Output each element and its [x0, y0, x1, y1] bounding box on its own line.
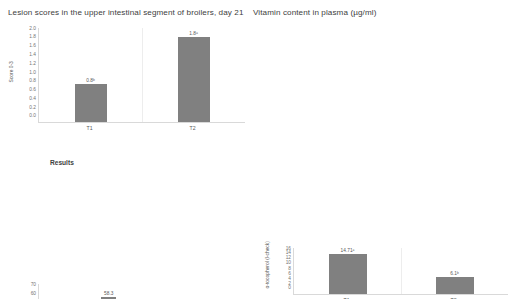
y-tick: 2.0 [29, 27, 36, 32]
lesion-scores-y-axis-label: Score 0-3 [9, 52, 15, 92]
bar-group-score-3: 8.3 16.7 [194, 284, 246, 299]
alpha-tocopherol-check-chart: α-tocopherol (l-check) 16 14 12 10 8 6 4… [253, 244, 509, 299]
y-tick: 0 [288, 286, 291, 291]
alpha-tocopherol-check-y-ticks: 16 14 12 10 8 6 4 2 0 [279, 248, 291, 294]
results-chart: % 70 60 50 40 30 20 10 0 33.3ᵃ 0ᵇ 58.3 [6, 280, 244, 299]
y-tick: 60 [31, 292, 36, 297]
bar-value-label: 6.1ᵇ [450, 271, 458, 276]
bar-t2[interactable]: 1.8ᵃ [178, 37, 210, 122]
results-y-ticks: 70 60 50 40 30 20 10 0 [22, 284, 36, 299]
results-plot-area: 33.3ᵃ 0ᵇ 58.3 33.3 0ᵇ 50ᵇ [38, 284, 245, 299]
bar-value-label: 1.8ᵃ [189, 31, 197, 36]
alpha-tocopherol-check-plot-area: 14.71ᵃ 6.1ᵇ [293, 248, 508, 295]
results-title: Results [50, 159, 74, 166]
alpha-tocopherol-check-y-axis-label: α-tocopherol (l-check) [265, 238, 271, 292]
lesion-scores-plot-area: 0.8ᵇ 1.8ᵃ [38, 28, 245, 123]
bar-t1[interactable]: 14.71ᵃ [329, 254, 367, 294]
x-tick-t2: T2 [141, 125, 244, 131]
lesion-scores-title: Lesion scores in the upper intestinal se… [8, 8, 244, 17]
bar-group-score-0: 33.3ᵃ 0ᵇ [39, 284, 91, 299]
y-tick: 1.8 [29, 35, 36, 40]
y-tick: 1.2 [29, 61, 36, 66]
lesion-scores-chart: Score 0-3 2.0 1.8 1.6 1.4 1.2 1.0 0.8 0.… [6, 24, 244, 134]
y-tick: 1.6 [29, 43, 36, 48]
y-tick: 0.2 [29, 106, 36, 111]
bar-t1[interactable]: 0.8ᵇ [75, 84, 107, 122]
y-tick: 0.6 [29, 88, 36, 93]
lesion-scores-x-axis: T1 T2 [38, 125, 244, 131]
y-tick: 70 [31, 283, 36, 288]
lesion-scores-y-ticks: 2.0 1.8 1.6 1.4 1.2 1.0 0.8 0.6 0.4 0.2 … [22, 28, 36, 122]
bar-value-label: 58.3 [104, 291, 113, 296]
y-tick: 0.8 [29, 79, 36, 84]
bar-value-label: 0.8ᵇ [86, 78, 94, 83]
bar-group-score-2: 0ᵇ 50ᵇ [142, 284, 194, 299]
y-tick: 1.0 [29, 70, 36, 75]
y-tick: 1.4 [29, 52, 36, 57]
bar-slot-t2: 1.8ᵃ [142, 28, 245, 122]
bar-slot-t1: 0.8ᵇ [39, 28, 142, 122]
bar-slot-t1: 14.71ᵃ [294, 248, 401, 294]
bar-t2[interactable]: 6.1ᵇ [436, 277, 474, 294]
y-tick: 0.4 [29, 97, 36, 102]
bar-group-score-1: 58.3 33.3 [91, 284, 143, 299]
bar-value-label: 14.71ᵃ [341, 248, 355, 253]
x-tick-t1: T1 [38, 125, 141, 131]
y-tick: 0.0 [29, 114, 36, 119]
vitamin-content-title: Vitamin content in plasma (µg/ml) [253, 8, 376, 17]
bar-slot-t2: 6.1ᵇ [401, 248, 508, 294]
